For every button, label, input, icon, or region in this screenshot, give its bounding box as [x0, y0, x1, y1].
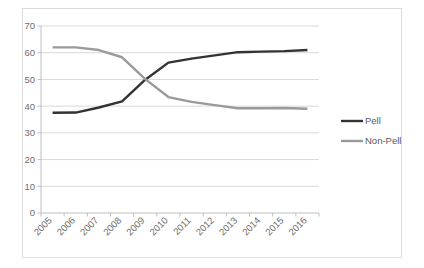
x-tick-label: 2010	[147, 215, 170, 238]
y-tick-label: 30	[24, 127, 35, 138]
y-tick-label: 50	[24, 74, 35, 85]
y-tick-label: 10	[24, 181, 35, 192]
y-tick-label: 40	[24, 101, 35, 112]
legend-label-non-pell: Non-Pell	[365, 135, 401, 146]
y-tick-label: 20	[24, 154, 35, 165]
x-tick-label: 2016	[286, 215, 309, 238]
y-tick-label: 70	[24, 20, 35, 31]
x-tick-label: 2009	[124, 215, 147, 238]
x-tick-label: 2006	[54, 215, 77, 238]
gridlines-group	[41, 26, 319, 186]
chart-container: 010203040506070 200520062007200820092010…	[22, 8, 402, 258]
line-chart: 010203040506070 200520062007200820092010…	[23, 9, 403, 259]
y-tick-label: 0	[30, 207, 35, 218]
legend-label-pell: Pell	[365, 115, 381, 126]
series-line-pell	[53, 50, 308, 113]
plot-area-wrapper: 010203040506070 200520062007200820092010…	[23, 9, 403, 259]
x-tick-label: 2011	[171, 215, 193, 237]
y-tick-label: 60	[24, 47, 35, 58]
x-tick-label: 2014	[240, 215, 263, 238]
x-tick-label: 2015	[263, 215, 286, 238]
x-tick-label: 2013	[217, 215, 240, 238]
y-tick-labels-group: 010203040506070	[24, 20, 41, 218]
x-tick-label: 2008	[101, 215, 124, 238]
chart-legend: PellNon-Pell	[341, 115, 401, 146]
series-line-non-pell	[53, 47, 308, 108]
x-tick-label: 2012	[193, 215, 216, 238]
axis-lines-group	[41, 26, 319, 213]
x-tick-labels-group: 2005200620072008200920102011201220132014…	[31, 215, 309, 238]
data-series-group	[53, 47, 308, 112]
x-tick-label: 2007	[78, 215, 101, 238]
